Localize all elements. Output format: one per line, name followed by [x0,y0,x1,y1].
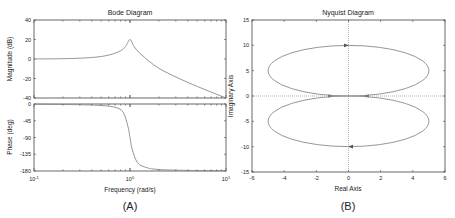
svg-text:101: 101 [222,175,231,183]
real-axis-label: Real Axis [334,185,362,192]
svg-text:0: 0 [246,93,249,99]
svg-text:-20: -20 [23,76,31,82]
imaginary-axis-label: Imaginary Axis [227,74,235,117]
frequency-xlabel: Frequency (rad/s) [104,186,155,194]
svg-text:10-1: 10-1 [29,175,39,183]
svg-text:-135: -135 [20,151,31,157]
magnitude-ylabel: Magnitude (dB) [6,37,14,81]
svg-text:100: 100 [126,175,135,183]
svg-text:-2: -2 [314,175,319,181]
svg-text:-6: -6 [250,175,255,181]
nyquist-arrow-lower [348,145,353,149]
svg-text:0: 0 [28,101,31,107]
phase-ylabel: Phase (deg) [6,119,14,154]
svg-text:-4: -4 [282,175,287,181]
svg-text:-5: -5 [244,118,249,124]
panel-label-a: (A) [123,200,138,212]
nyquist-lower-loop [268,96,429,147]
svg-text:6: 6 [443,175,446,181]
svg-text:10: 10 [243,42,249,48]
svg-text:0: 0 [347,175,350,181]
nyquist-ticks: -6-4-20246151050-5-10-15 [241,17,446,181]
svg-text:-45: -45 [23,118,31,124]
frequency-minor-ticks [34,20,226,171]
svg-text:5: 5 [246,68,249,74]
svg-text:20: 20 [25,37,31,43]
svg-text:40: 40 [25,17,31,23]
nyquist-arrow-right [363,94,369,97]
svg-text:4: 4 [411,175,414,181]
svg-text:15: 15 [243,17,249,23]
bode-title: Bode Diagram [108,9,153,17]
svg-text:-15: -15 [241,169,249,175]
phase-curve [34,104,226,171]
svg-text:-90: -90 [23,135,31,141]
frequency-x-ticks: 10-1 100 101 [29,175,231,183]
magnitude-curve [34,40,226,99]
svg-text:2: 2 [379,175,382,181]
svg-text:0: 0 [28,56,31,62]
nyquist-title: Nyquist Diagram [322,9,374,17]
figure: Bode Diagram 40200-20-40 Magnitude (dB) … [0,0,455,218]
svg-text:-10: -10 [241,144,249,150]
nyquist-arrow-left [328,94,334,97]
svg-text:-180: -180 [20,168,31,174]
panel-label-b: (B) [341,200,356,212]
